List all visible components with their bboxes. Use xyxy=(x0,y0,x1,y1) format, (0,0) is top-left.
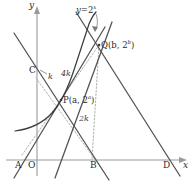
point-label-q: Q(b, 2b) xyxy=(101,40,134,49)
point-label-p: P(a, 2a) xyxy=(63,95,94,104)
point-label-b: B xyxy=(90,161,97,170)
curve-equation-label: y=2x xyxy=(76,5,96,14)
point-label-c: C xyxy=(29,66,36,75)
point-label-a: A xyxy=(15,161,22,170)
slope-label-2k: 2k xyxy=(79,115,89,123)
line-c-p-b xyxy=(14,33,109,180)
curve-label-arrowhead xyxy=(92,26,98,32)
point-q-close: ) xyxy=(131,40,134,50)
curve-label-exponent: x xyxy=(93,4,96,10)
point-marker-q xyxy=(98,44,101,47)
c-label-leader xyxy=(40,70,47,74)
point-marker-p xyxy=(60,99,63,102)
diagram-svg xyxy=(0,0,195,183)
slope-label-k: k xyxy=(48,73,53,81)
solid-lines-group xyxy=(14,12,180,180)
point-q-text: Q(b, 2 xyxy=(101,40,128,50)
y-axis-arrow xyxy=(34,6,40,14)
point-p-close: ) xyxy=(91,95,94,105)
point-label-d: D xyxy=(163,161,170,170)
figure-canvas: y x O A B C D y=2x P(a, 2a) Q(b, 2b) k 2… xyxy=(0,0,195,183)
point-p-text: P(a, 2 xyxy=(63,95,88,105)
curve-label-eq: =2 xyxy=(81,5,94,15)
y-axis-label: y xyxy=(29,1,34,10)
x-axis-label: x xyxy=(183,161,188,170)
origin-label: O xyxy=(28,161,35,170)
slope-label-4k: 4k xyxy=(61,70,71,78)
